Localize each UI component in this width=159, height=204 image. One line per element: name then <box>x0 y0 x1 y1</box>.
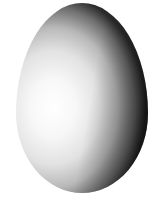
egg-shadow <box>16 3 148 193</box>
egg <box>16 3 148 193</box>
